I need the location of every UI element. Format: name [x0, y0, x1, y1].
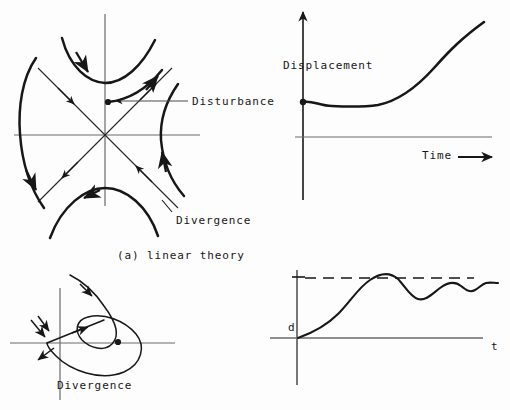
- label-displacement-axis: Displacement: [283, 60, 373, 71]
- arrow-out-lower-left: [38, 348, 54, 360]
- trajectory-left: [20, 58, 44, 208]
- label-divergence-linear: Divergence: [176, 215, 251, 226]
- response-curve: [298, 274, 498, 338]
- caption-linear-theory: (a) linear theory: [117, 250, 245, 261]
- homoclinic-loop: [47, 275, 141, 376]
- trajectory-upper: [62, 38, 155, 83]
- trajectory-arrows: [26, 52, 166, 198]
- panel-top-right: [295, 12, 492, 200]
- label-time-axis: Time: [422, 150, 452, 161]
- divergence-leader-line-a: [162, 200, 172, 212]
- label-divergence-nonlinear: Divergence: [57, 380, 132, 391]
- panel-bottom-right: [270, 270, 498, 385]
- disturbance-point: [105, 99, 111, 105]
- trajectory-lower: [50, 188, 158, 238]
- figure-canvas: [0, 0, 510, 410]
- label-disturbance: Disturbance: [192, 96, 275, 107]
- arrow-sep-down-left: [62, 162, 78, 178]
- panel-top-left: [14, 14, 200, 238]
- label-t-axis: t: [491, 341, 499, 352]
- arrow-in-upper-left-2: [38, 316, 49, 331]
- figure-root: Disturbance Divergence (a) linear theory…: [0, 0, 510, 410]
- focus-point: [115, 339, 121, 345]
- displacement-start-point: [300, 99, 306, 105]
- arrow-sep-in-lower-right: [136, 166, 152, 182]
- arrow-sep-in-upper-left: [58, 88, 74, 104]
- arrow-loop-outgoing: [72, 327, 88, 333]
- bl-arrows: [31, 284, 92, 360]
- label-d-axis: d: [288, 322, 296, 333]
